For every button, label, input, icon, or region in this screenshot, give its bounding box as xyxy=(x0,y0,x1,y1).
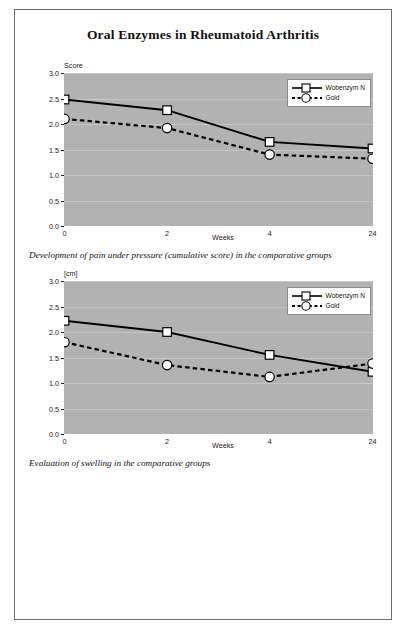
legend-label-gold-1: Gold xyxy=(326,94,340,102)
y-tick-label: 2.5 xyxy=(27,302,59,311)
y-tick-mark xyxy=(61,99,64,100)
y-tick-label: 1.5 xyxy=(27,145,59,154)
legend-swatch-gold-2 xyxy=(292,301,322,311)
data-point xyxy=(64,317,69,326)
data-point xyxy=(368,359,373,368)
y-tick-label: 2.0 xyxy=(27,120,59,129)
x-tick-label: 24 xyxy=(369,229,377,238)
y-tick-mark xyxy=(61,409,64,410)
figure-swelling: [cm] Weeks Wobenzym N xyxy=(15,269,391,468)
legend-swatch-wobenzym-1 xyxy=(292,83,322,93)
legend-item-wobenzym-1: Wobenzym N xyxy=(292,83,365,93)
legend-swatch-wobenzym-2 xyxy=(292,291,322,301)
x-tick-label: 0 xyxy=(63,437,67,446)
y-tick-mark xyxy=(61,175,64,176)
data-point xyxy=(64,95,69,104)
y-tick-label: 0.5 xyxy=(27,404,59,413)
data-point xyxy=(162,360,171,369)
y-tick-mark xyxy=(61,124,64,125)
data-point xyxy=(64,338,69,347)
data-point xyxy=(265,150,274,159)
x-tick-label: 4 xyxy=(268,437,272,446)
x-tick-label: 2 xyxy=(165,229,169,238)
legend-1: Wobenzym N Gold xyxy=(287,79,371,107)
legend-label-wobenzym-1: Wobenzym N xyxy=(326,84,365,92)
data-point xyxy=(64,114,69,123)
y-tick-mark xyxy=(61,332,64,333)
x-axis-title-2: Weeks xyxy=(212,441,234,450)
y-tick-mark xyxy=(61,358,64,359)
legend-item-gold-2: Gold xyxy=(292,301,365,311)
y-tick-mark xyxy=(61,434,64,435)
legend-item-gold-1: Gold xyxy=(292,93,365,103)
figure-caption-1: Development of pain under pressure (cumu… xyxy=(29,250,391,260)
series-line-gold xyxy=(65,342,373,377)
legend-label-gold-2: Gold xyxy=(326,302,340,310)
y-tick-label: 1.5 xyxy=(27,353,59,362)
data-point xyxy=(163,106,172,115)
y-tick-label: 3.0 xyxy=(27,69,59,78)
data-point xyxy=(265,138,274,147)
legend-swatch-gold-1 xyxy=(292,93,322,103)
figure-caption-2: Evaluation of swelling in the comparativ… xyxy=(29,458,391,468)
y-tick-label: 0.0 xyxy=(27,222,59,231)
x-tick-label: 2 xyxy=(165,437,169,446)
chart-pain-under-pressure: Score Weeks Wobenzym N xyxy=(27,61,379,246)
y-tick-label: 1.0 xyxy=(27,171,59,180)
data-point xyxy=(265,351,274,360)
legend-label-wobenzym-2: Wobenzym N xyxy=(326,292,365,300)
y-tick-label: 0.5 xyxy=(27,196,59,205)
data-point xyxy=(162,123,171,132)
figure-pain-under-pressure: Score Weeks Wobenzym N xyxy=(15,61,391,260)
data-point xyxy=(368,154,373,163)
y-tick-label: 2.0 xyxy=(27,328,59,337)
y-tick-mark xyxy=(61,201,64,202)
y-axis-title-1: Score xyxy=(64,61,83,70)
y-tick-label: 1.0 xyxy=(27,379,59,388)
y-tick-mark xyxy=(61,281,64,282)
x-tick-label: 4 xyxy=(268,229,272,238)
y-tick-label: 3.0 xyxy=(27,277,59,286)
data-point xyxy=(265,372,274,381)
y-tick-mark xyxy=(61,150,64,151)
y-tick-mark xyxy=(61,73,64,74)
data-point xyxy=(368,144,373,153)
x-axis-title-1: Weeks xyxy=(212,233,234,242)
series-line-gold xyxy=(65,119,373,159)
page-title: Oral Enzymes in Rheumatoid Arthritis xyxy=(15,27,391,43)
x-tick-label: 24 xyxy=(369,437,377,446)
y-tick-label: 0.0 xyxy=(27,430,59,439)
y-axis-title-2: [cm] xyxy=(64,269,78,278)
y-tick-mark xyxy=(61,307,64,308)
y-tick-label: 2.5 xyxy=(27,94,59,103)
series-line-wobenzym-n xyxy=(65,321,373,372)
data-point xyxy=(163,328,172,337)
document-page: Oral Enzymes in Rheumatoid Arthritis Sco… xyxy=(14,9,392,620)
legend-2: Wobenzym N Gold xyxy=(287,287,371,315)
y-tick-mark xyxy=(61,226,64,227)
chart-swelling: [cm] Weeks Wobenzym N xyxy=(27,269,379,454)
x-tick-label: 0 xyxy=(63,229,67,238)
legend-item-wobenzym-2: Wobenzym N xyxy=(292,291,365,301)
y-tick-mark xyxy=(61,383,64,384)
